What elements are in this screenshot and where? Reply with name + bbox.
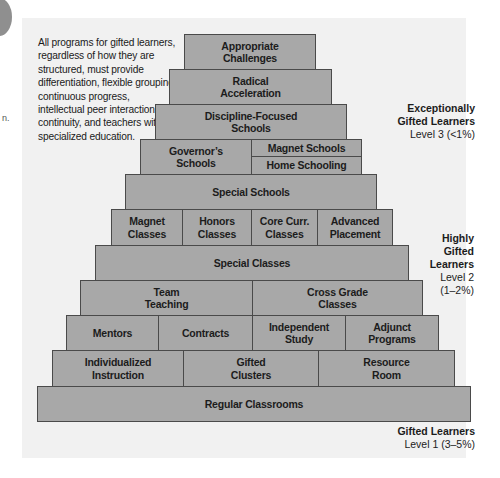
block-team-teaching: Team Teaching (80, 280, 253, 316)
block-mentors: Mentors (66, 315, 159, 351)
level-2-title: Highly Gifted Learners (400, 232, 474, 271)
block-honors-classes: Honors Classes (182, 209, 252, 246)
block-regular-classrooms: Regular Classrooms (37, 386, 471, 422)
block-core-curr-classes: Core Curr. Classes (251, 209, 318, 246)
block-magnet-classes: Magnet Classes (111, 209, 183, 246)
level-1-title: Gifted Learners (360, 425, 475, 438)
block-resource-room: Resource Room (318, 350, 455, 387)
block-cross-grade-classes: Cross Grade Classes (252, 280, 423, 316)
block-special-schools: Special Schools (125, 174, 377, 210)
block-appropriate-challenges: Appropriate Challenges (184, 34, 316, 70)
block-magnet-schools: Magnet Schools (251, 139, 362, 157)
page-marker-circle (0, 0, 12, 36)
level-1-label: Gifted Learners Level 1 (3–5%) (360, 425, 475, 451)
level-3-label: Exceptionally Gifted Learners Level 3 (<… (360, 102, 475, 141)
block-independent-study: Independent Study (252, 315, 346, 351)
block-contracts: Contracts (158, 315, 253, 351)
block-gifted-clusters: Gifted Clusters (183, 350, 319, 387)
block-radical-acceleration: Radical Acceleration (169, 69, 332, 105)
block-advanced-placement: Advanced Placement (317, 209, 393, 246)
block-home-schooling: Home Schooling (251, 156, 362, 175)
level-1-subtitle: Level 1 (3–5%) (360, 438, 475, 451)
block-individualized-instruction: Individualized Instruction (52, 350, 184, 387)
level-3-subtitle: Level 3 (<1%) (360, 128, 475, 141)
block-adjunct-programs: Adjunct Programs (345, 315, 439, 351)
side-text-fragment: n. (2, 113, 10, 123)
level-3-title: Exceptionally Gifted Learners (360, 102, 475, 128)
block-discipline-focused-schools: Discipline-Focused Schools (155, 104, 347, 140)
block-governors-schools: Governor’s Schools (140, 139, 252, 175)
block-special-classes: Special Classes (95, 245, 409, 281)
